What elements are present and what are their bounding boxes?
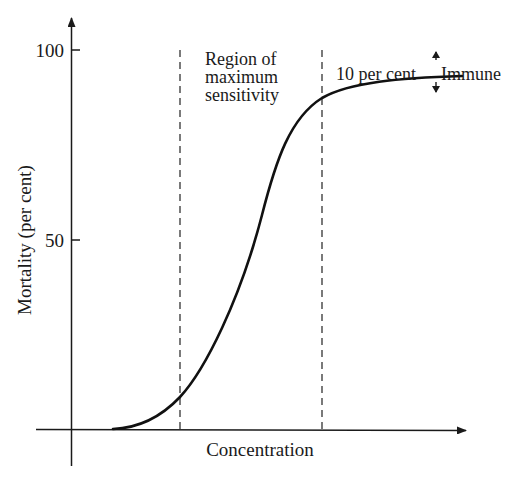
- region-label-line3: sensitivity: [205, 85, 279, 105]
- y-tick-label-100: 100: [36, 40, 65, 61]
- dose-response-figure: 100 50 Mortality (per cent) Concentratio…: [0, 0, 530, 491]
- y-tick-label-50: 50: [45, 230, 64, 251]
- region-annotation: Region of maximum sensitivity: [205, 49, 279, 105]
- x-axis-line: [36, 430, 466, 431]
- region-label-line1: Region of: [205, 49, 277, 69]
- chart-canvas: 100 50 Mortality (per cent) Concentratio…: [0, 0, 530, 491]
- mortality-curve: [113, 76, 462, 429]
- y-axis-title: Mortality (per cent): [14, 165, 36, 315]
- immune-label: Immune: [441, 64, 501, 84]
- x-axis: Concentration: [36, 430, 466, 461]
- region-label-line2: maximum: [205, 67, 278, 87]
- y-axis: 100 50 Mortality (per cent): [14, 18, 80, 466]
- x-axis-title: Concentration: [206, 439, 314, 460]
- ten-per-cent-label: 10 per cent: [336, 64, 416, 84]
- sensitivity-region-bounds: [180, 50, 322, 429]
